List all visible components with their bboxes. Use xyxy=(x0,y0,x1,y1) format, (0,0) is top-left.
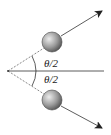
lower-ball xyxy=(42,90,62,110)
vertex-point xyxy=(7,70,9,72)
upper-angle-label: θ/2 xyxy=(44,57,58,69)
scattering-diagram: θ/2 θ/2 xyxy=(0,0,111,135)
upper-velocity-arrow xyxy=(61,11,102,36)
lower-dashed-line xyxy=(8,71,44,94)
lower-angle-label: θ/2 xyxy=(44,73,58,85)
upper-ball xyxy=(42,32,62,52)
lower-velocity-arrow xyxy=(61,106,102,128)
upper-dashed-line xyxy=(8,48,44,71)
